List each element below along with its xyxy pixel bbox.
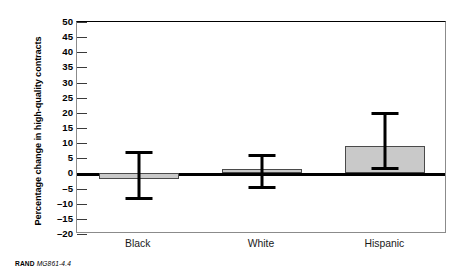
y-tick: 20 bbox=[77, 113, 87, 114]
y-tick: –5 bbox=[77, 189, 87, 190]
y-tick: 15 bbox=[77, 128, 87, 129]
y-tick: –20 bbox=[77, 234, 87, 235]
y-tick: 0 bbox=[77, 173, 87, 174]
y-tick-label: 10 bbox=[62, 137, 73, 148]
x-axis-label-black: Black bbox=[125, 238, 150, 249]
footer-figure-id: MG861-4.4 bbox=[37, 260, 71, 267]
y-tick: –15 bbox=[77, 219, 87, 220]
y-tick: 25 bbox=[77, 98, 87, 99]
figure-container: Percentage change in high-quality contra… bbox=[0, 0, 470, 277]
y-tick: 5 bbox=[77, 158, 87, 159]
y-tick: 35 bbox=[77, 67, 87, 68]
error-bar-white bbox=[261, 155, 264, 187]
y-tick-label: 5 bbox=[68, 152, 73, 163]
y-tick-label: –10 bbox=[57, 198, 73, 209]
y-tick-label: 40 bbox=[62, 46, 73, 57]
y-tick-label: 50 bbox=[62, 16, 73, 27]
error-cap-upper-hispanic bbox=[372, 112, 399, 115]
y-tick: 10 bbox=[77, 143, 87, 144]
figure-footer: RAND MG861-4.4 bbox=[15, 260, 71, 267]
error-cap-lower-white bbox=[249, 186, 276, 189]
error-cap-lower-hispanic bbox=[372, 167, 399, 170]
y-axis-title: Percentage change in high-quality contra… bbox=[33, 16, 43, 246]
error-cap-upper-white bbox=[249, 154, 276, 157]
x-axis-label-hispanic: Hispanic bbox=[364, 238, 404, 249]
y-tick: 50 bbox=[77, 22, 87, 23]
y-tick: 40 bbox=[77, 52, 87, 53]
y-tick-label: 20 bbox=[62, 107, 73, 118]
y-tick-label: 25 bbox=[62, 92, 73, 103]
y-tick: 45 bbox=[77, 37, 87, 38]
error-bar-black bbox=[137, 152, 140, 197]
y-tick-label: –15 bbox=[57, 213, 73, 224]
y-tick-label: 30 bbox=[62, 77, 73, 88]
y-tick-label: 45 bbox=[62, 31, 73, 42]
y-tick-label: 15 bbox=[62, 122, 73, 133]
y-tick-label: –20 bbox=[57, 228, 73, 239]
x-axis-label-white: White bbox=[248, 238, 275, 249]
y-tick-label: 35 bbox=[62, 61, 73, 72]
plot-area: 50454035302520151050–5–10–15–20 bbox=[76, 21, 446, 233]
error-cap-upper-black bbox=[125, 151, 152, 154]
y-tick-label: –5 bbox=[62, 183, 73, 194]
y-tick: –10 bbox=[77, 204, 87, 205]
error-bar-hispanic bbox=[384, 113, 387, 168]
error-cap-lower-black bbox=[125, 197, 152, 200]
footer-source: RAND bbox=[15, 260, 35, 267]
y-tick-label: 0 bbox=[68, 167, 73, 178]
y-tick: 30 bbox=[77, 83, 87, 84]
